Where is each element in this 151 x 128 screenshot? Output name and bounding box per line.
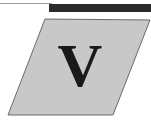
emblem-letter: V <box>55 34 105 96</box>
